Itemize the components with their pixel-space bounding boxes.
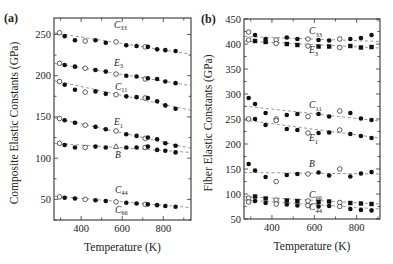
data-point-filled (73, 87, 78, 92)
y-axis-label: Fiber Elastic Constants (GPa) (202, 54, 215, 191)
series-e3: E3 (54, 58, 191, 86)
data-point-filled (62, 34, 67, 39)
data-point-filled-square (348, 44, 352, 48)
data-point-filled (73, 145, 78, 150)
x-axis-label: Temperature (K) (274, 240, 351, 253)
data-point-filled (62, 82, 67, 87)
data-point-filled (62, 143, 67, 148)
data-point-filled (369, 118, 374, 123)
data-point-open-triangle (113, 144, 118, 149)
series-label: C66 (115, 205, 129, 217)
fit-line (54, 33, 191, 54)
data-point-filled (93, 125, 98, 130)
data-point-open (246, 200, 251, 205)
data-point-open (114, 200, 119, 205)
data-point-filled (163, 103, 168, 108)
data-point-filled (327, 204, 332, 209)
data-point-filled (93, 144, 98, 149)
data-point-filled (369, 208, 374, 213)
data-point-filled (93, 68, 98, 73)
data-point-filled (284, 127, 289, 132)
series-e1: E1 (244, 117, 380, 145)
data-point-filled (359, 208, 364, 213)
series-label: E1 (308, 133, 318, 145)
data-point-filled (316, 131, 321, 136)
x-axis-label: Temperature (K) (84, 241, 161, 254)
data-point-filled (327, 38, 332, 43)
y-axis-label: Composite Elastic Constants (GPa) (8, 42, 21, 205)
data-point-filled (253, 199, 258, 204)
data-point-filled (124, 145, 129, 150)
data-point-filled-square (285, 42, 289, 46)
panel-a-composite: 40060080050100150200250Temperature (K)Co… (4, 11, 191, 254)
data-point-open (57, 79, 62, 84)
data-point-filled (263, 201, 268, 206)
x-tick-label: 400 (73, 223, 89, 234)
data-point-filled (348, 207, 353, 212)
series-c44: C44 (54, 185, 191, 209)
data-point-filled (316, 38, 321, 43)
data-point-filled (163, 148, 168, 153)
data-point-filled (327, 173, 332, 178)
series-c11: C11 (244, 96, 380, 123)
data-point-filled (146, 135, 151, 140)
data-point-filled (146, 202, 151, 207)
data-point-filled-square (327, 199, 331, 203)
x-tick-label: 800 (155, 223, 171, 234)
data-point-filled (62, 195, 67, 200)
data-point-filled-square (369, 202, 373, 206)
data-point-filled (359, 36, 364, 41)
data-point-filled (253, 33, 258, 38)
data-point-filled (284, 173, 289, 178)
data-point-filled (62, 118, 67, 123)
data-point-filled (263, 175, 268, 180)
panel-label: (b) (201, 12, 216, 26)
series-label: E3 (113, 58, 123, 70)
data-point-filled-square (263, 196, 267, 200)
data-point-filled (263, 123, 268, 128)
data-point-filled (124, 73, 129, 78)
data-point-filled (146, 96, 151, 101)
data-point-open (83, 90, 88, 95)
data-point-open (83, 66, 88, 71)
data-point-filled (253, 102, 258, 107)
data-point-filled (93, 38, 98, 43)
data-point-filled (359, 171, 364, 176)
data-point-open (57, 61, 62, 66)
data-point-filled (348, 37, 353, 42)
data-point-open (337, 128, 342, 133)
data-point-filled (295, 203, 300, 208)
y-tick-label: 350 (225, 64, 241, 75)
series-c11: C11 (54, 79, 191, 111)
data-point-filled (327, 130, 332, 135)
data-point-filled (73, 120, 78, 125)
data-point-filled (93, 89, 98, 94)
y-tick-label: 300 (225, 89, 241, 100)
data-point-filled-square (295, 199, 299, 203)
data-point-open (306, 172, 311, 177)
data-point-open (337, 37, 342, 42)
series-label: C33 (309, 26, 322, 38)
y-tick-label: 400 (225, 39, 241, 50)
data-point-open (83, 39, 88, 44)
data-point-open (57, 195, 62, 200)
series-label: B (309, 159, 315, 169)
data-point-open (57, 31, 62, 36)
data-point-filled (146, 45, 151, 50)
data-point-open (337, 167, 342, 172)
y-tick-label: 200 (35, 70, 51, 81)
data-point-filled (295, 37, 300, 42)
y-tick-label: 50 (41, 194, 52, 205)
data-point-filled (348, 132, 353, 137)
data-point-open (337, 109, 342, 114)
data-point-filled (284, 113, 289, 118)
data-point-filled (124, 43, 129, 48)
data-point-open (57, 141, 62, 146)
data-point-filled (93, 198, 98, 203)
data-point-open (274, 202, 279, 207)
y-tick-label: 250 (225, 114, 241, 125)
data-point-filled (155, 47, 160, 52)
data-point-filled (369, 33, 374, 38)
data-point-filled (173, 150, 178, 155)
data-point-filled (163, 79, 168, 84)
